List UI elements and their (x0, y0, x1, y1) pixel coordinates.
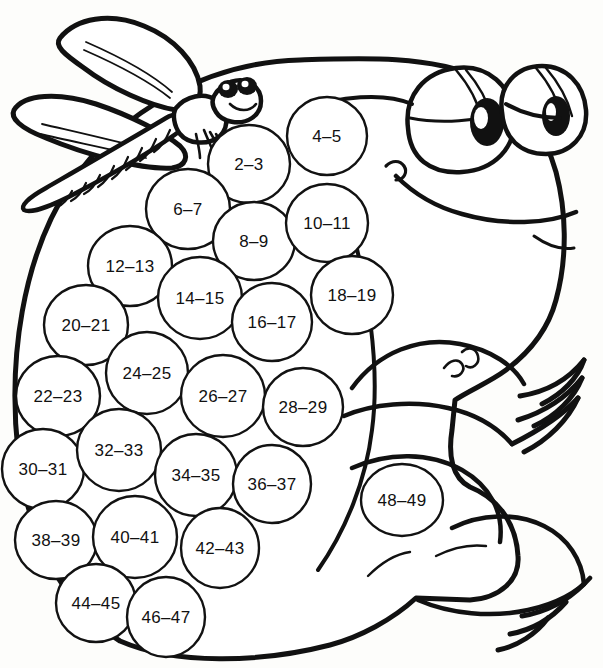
region-number-label: 12–13 (106, 257, 155, 276)
numbered-region[interactable]: 18–19 (311, 256, 393, 334)
numbered-region[interactable]: 30–31 (2, 429, 84, 509)
region-number-label: 10–11 (303, 214, 351, 233)
numbered-region[interactable]: 46–47 (127, 577, 205, 657)
numbered-region[interactable]: 48–49 (361, 464, 443, 536)
frog-left-pupil-highlight (474, 107, 488, 129)
numbered-region[interactable]: 10–11 (286, 184, 368, 262)
numbered-region[interactable]: 44–45 (56, 564, 136, 642)
region-number-label: 26–27 (199, 387, 248, 406)
region-number-label: 32–33 (95, 441, 144, 460)
region-number-label: 20–21 (62, 316, 111, 335)
region-number-label: 34–35 (172, 466, 221, 485)
region-number-label: 42–43 (196, 539, 245, 558)
numbered-region[interactable]: 32–33 (77, 409, 161, 491)
region-number-label: 36–37 (248, 475, 297, 494)
dragonfly-left-eye-highlight (223, 84, 230, 90)
region-number-label: 40–41 (111, 528, 160, 547)
region-number-label: 18–19 (328, 286, 377, 305)
numbered-region[interactable]: 26–27 (181, 355, 265, 437)
numbered-region[interactable]: 28–29 (263, 368, 343, 446)
region-number-label: 16–17 (248, 313, 297, 332)
numbered-region[interactable]: 24–25 (106, 332, 188, 414)
numbered-region[interactable]: 34–35 (155, 434, 237, 516)
region-number-label: 30–31 (19, 460, 68, 479)
region-number-label: 28–29 (279, 398, 328, 417)
numbered-region[interactable]: 4–5 (287, 97, 367, 175)
numbered-region[interactable]: 16–17 (232, 283, 312, 361)
region-number-label: 2–3 (234, 155, 263, 174)
region-number-label: 44–45 (72, 594, 121, 613)
region-number-label: 8–9 (239, 232, 268, 251)
region-number-label: 14–15 (176, 289, 225, 308)
region-number-label: 22–23 (34, 387, 83, 406)
numbered-region[interactable]: 14–15 (158, 257, 242, 339)
region-number-label: 48–49 (378, 491, 427, 510)
coloring-page-artwork: 2–34–56–78–910–1112–1314–1516–1718–1920–… (0, 0, 603, 668)
dragonfly-right-eye-highlight (242, 81, 249, 87)
region-number-label: 38–39 (32, 531, 81, 550)
region-number-label: 6–7 (173, 200, 202, 219)
region-number-label: 4–5 (312, 127, 341, 146)
numbered-region[interactable]: 42–43 (181, 508, 259, 588)
region-number-label: 46–47 (142, 608, 191, 627)
region-number-label: 24–25 (123, 364, 172, 383)
coloring-page: 2–34–56–78–910–1112–1314–1516–1718–1920–… (0, 0, 603, 668)
numbered-region[interactable]: 36–37 (233, 445, 311, 523)
